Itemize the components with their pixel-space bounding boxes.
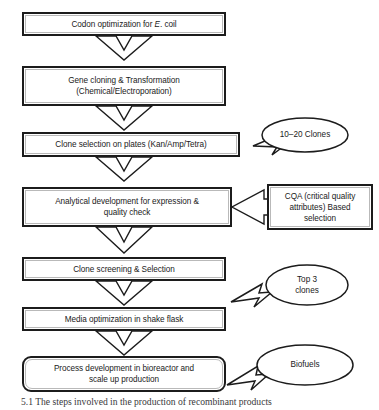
connector-arrow-6 bbox=[96, 331, 152, 355]
process-box-step-4-label: Analytical development for expression & … bbox=[51, 196, 203, 218]
process-box-step-5-label: Clone screening & Selection bbox=[69, 264, 179, 275]
figure-caption: 5.1 The steps involved in the production… bbox=[21, 396, 365, 410]
process-box-step-2-label: Gene cloning & Transformation (Chemical/… bbox=[64, 75, 183, 97]
callout-top3-label: Top 3 clones bbox=[272, 275, 342, 296]
connector-arrow-2 bbox=[96, 106, 152, 130]
connector-arrow-4 bbox=[96, 227, 152, 253]
process-box-cqa-label: CQA (critical quality attributes) Based … bbox=[281, 191, 359, 224]
callout-clones-label: 10–20 Clones bbox=[264, 130, 346, 141]
process-box-step-7[interactable]: Process development in bioreactor and sc… bbox=[22, 356, 226, 392]
process-box-step-5[interactable]: Clone screening & Selection bbox=[22, 257, 226, 281]
process-box-step-6[interactable]: Media optimization in shake flask bbox=[22, 307, 226, 331]
process-box-step-3-label: Clone selection on plates (Kan/Amp/Tetra… bbox=[51, 139, 210, 150]
step-1-label-pre: Codon optimization for bbox=[71, 20, 154, 29]
connector-arrow-3 bbox=[96, 157, 152, 181]
process-box-step-1-label: Codon optimization for E. coil bbox=[67, 19, 180, 30]
callout-biofuels-label: Biofuels bbox=[265, 360, 345, 371]
step-1-label-post: . coil bbox=[160, 20, 177, 29]
process-box-step-4[interactable]: Analytical development for expression & … bbox=[22, 187, 232, 227]
process-box-step-3[interactable]: Clone selection on plates (Kan/Amp/Tetra… bbox=[22, 132, 240, 157]
process-box-cqa[interactable]: CQA (critical quality attributes) Based … bbox=[267, 184, 373, 230]
process-box-step-6-label: Media optimization in shake flask bbox=[61, 314, 188, 325]
process-box-step-2[interactable]: Gene cloning & Transformation (Chemical/… bbox=[22, 66, 226, 106]
process-box-step-7-label: Process development in bioreactor and sc… bbox=[50, 363, 198, 385]
connector-arrow-5 bbox=[96, 281, 152, 305]
callout-biofuels-tail bbox=[227, 366, 269, 390]
process-box-step-1[interactable]: Codon optimization for E. coil bbox=[22, 12, 226, 36]
flowchart-canvas: Codon optimization for E. coil Gene clon… bbox=[0, 0, 379, 410]
connector-arrow-1 bbox=[96, 36, 152, 60]
callout-top3-tail bbox=[231, 284, 272, 307]
